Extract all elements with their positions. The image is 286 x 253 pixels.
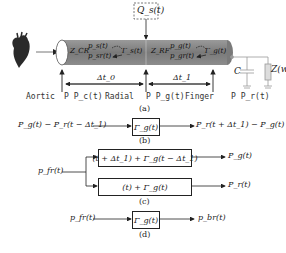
b-output: P_r(t + Δt_1) − P_g(t) xyxy=(196,120,284,129)
caption-b: (b) xyxy=(139,136,150,145)
c-block-top: (t + Δt_1) + Γ_g(t − Δt_1) xyxy=(98,149,192,167)
site-aortic: Aortic xyxy=(26,92,55,101)
segment1-backward-wave: p_sr(t) xyxy=(88,52,111,60)
c-block-bottom: (t) + Γ_g(t) xyxy=(98,178,192,196)
impedance-label: Z(w) xyxy=(271,64,286,74)
segment2-backward-wave: p_gr(t) xyxy=(170,52,194,60)
b-block: Γ_g(t) xyxy=(132,118,160,136)
c-input: p_fr(t) xyxy=(38,166,63,175)
d-output: p_br(t) xyxy=(198,213,226,222)
site-radial: Radial xyxy=(105,92,134,101)
segment1-forward-wave: p_s(t) xyxy=(88,42,108,50)
delay-1: Δt_1 xyxy=(173,73,191,82)
pressure-radial: P P_g(t) xyxy=(146,92,185,101)
d-block: Γ_g(t) xyxy=(132,211,160,229)
d-input: p_fr(t) xyxy=(70,213,95,222)
capacitor-label: C xyxy=(234,66,241,76)
segment1-reflection: Γ_s(t) xyxy=(122,47,142,55)
delay-0: Δt_0 xyxy=(97,73,115,82)
site-finger: Finger xyxy=(185,92,214,101)
segment2-reflection: Γ_g(t) xyxy=(205,47,226,55)
source-label: Q_s(t) xyxy=(137,5,164,15)
pressure-finger: P P_r(t) xyxy=(231,92,270,101)
caption-d: (d) xyxy=(139,230,150,239)
segment2-forward-wave: p_g(t) xyxy=(170,42,191,50)
pressure-aortic: P P_c(t) xyxy=(64,92,103,101)
c-output-bottom: P_r(t) xyxy=(228,180,251,189)
segment1-impedance: Z_CR xyxy=(70,47,89,55)
site-labels: Aortic P P_c(t) Radial P P_g(t) Finger P… xyxy=(0,92,286,104)
b-input: P_g(t) − P_r(t − Δt_1) xyxy=(18,120,106,129)
caption-a: (a) xyxy=(139,104,150,113)
c-output-top: P_g(t) xyxy=(228,151,252,160)
heart-icon xyxy=(12,32,29,68)
caption-c: (c) xyxy=(139,197,150,206)
segment2-impedance: Z_RF xyxy=(151,47,170,55)
